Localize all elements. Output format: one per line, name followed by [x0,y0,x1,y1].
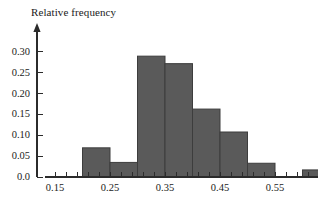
y-axis-arrowhead [33,23,40,32]
y-tick-label: 0.20 [0,88,30,99]
histogram-figure: Relative frequency 0.00.050.100.150.200.… [0,0,318,212]
histogram-canvas [0,0,318,212]
x-tick-label: 0.35 [145,182,185,193]
y-tick-label: 0.30 [0,46,30,57]
y-tick-label: 0.0 [0,171,30,182]
histogram-bar [110,162,138,177]
y-tick-label: 0.10 [0,129,30,140]
histogram-bar [138,56,166,177]
histogram-bar [220,132,248,177]
y-tick-label: 0.15 [0,108,30,119]
histogram-bar [193,109,221,177]
x-tick-label: 0.55 [255,182,295,193]
histogram-bar [83,148,111,177]
y-tick-label: 0.05 [0,150,30,161]
y-tick-label: 0.25 [0,67,30,78]
histogram-bar [303,170,319,177]
x-tick-label: 0.15 [35,182,75,193]
bars-group [83,56,319,177]
histogram-bar [248,163,276,177]
x-tick-label: 0.25 [90,182,130,193]
x-tick-label: 0.45 [200,182,240,193]
x-tick-label: 0.65 [310,182,318,193]
histogram-bar [165,64,193,177]
plot-area: 0.00.050.100.150.200.250.30 0.150.250.35… [0,0,318,212]
